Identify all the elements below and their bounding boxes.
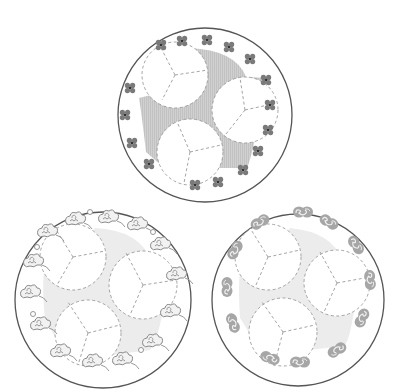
plate-top [118,28,292,202]
scroll-motif [222,277,233,297]
plate-diagram-canvas [0,0,406,392]
scroll-motif [293,207,313,218]
plate-bottom-left [15,210,193,389]
scroll-motif [290,357,310,368]
plate-bottom-right [212,207,384,387]
